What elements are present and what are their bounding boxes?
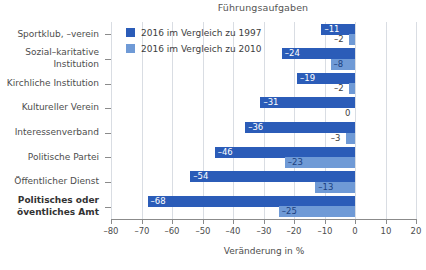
bar-value-label: –23 xyxy=(288,157,303,168)
bar-series-1 xyxy=(215,147,355,158)
x-axis-tick-label: –50 xyxy=(186,226,220,236)
bar-value-label: –24 xyxy=(285,48,300,59)
bar-series-1 xyxy=(190,171,355,182)
bar-value-label: –3 xyxy=(331,133,341,144)
bar-value-label: –2 xyxy=(334,34,344,45)
y-axis-tick xyxy=(105,207,111,208)
bar-series-2 xyxy=(346,133,355,144)
bar-series-2 xyxy=(349,83,355,94)
bar-value-label: –68 xyxy=(151,196,166,207)
legend-label-series-1: 2016 im Vergleich zu 1997 xyxy=(141,28,261,38)
gridline xyxy=(264,22,265,219)
x-axis-tick xyxy=(416,219,417,224)
y-axis-category-label: Kultureller Verein xyxy=(22,102,99,114)
x-axis-tick xyxy=(294,219,295,224)
y-axis-tick xyxy=(105,59,111,60)
x-axis-tick-label: –20 xyxy=(277,226,311,236)
chart-figure: Führungsaufgaben Sportklub, –vereinSozia… xyxy=(0,0,426,270)
legend-swatch-icon-series-1 xyxy=(126,28,135,37)
chart-title: Führungsaufgaben xyxy=(113,2,413,13)
x-axis-tick-label: –70 xyxy=(125,226,159,236)
x-axis-tick-label: –60 xyxy=(155,226,189,236)
y-axis-category-label: Politisches oder öventliches Amt xyxy=(17,195,99,218)
gridline xyxy=(416,22,417,219)
gridline xyxy=(111,22,112,219)
bar-value-label: –8 xyxy=(334,59,344,70)
chart-legend: 2016 im Vergleich zu 1997 2016 im Vergle… xyxy=(126,26,261,58)
bar-value-label: –19 xyxy=(300,73,315,84)
x-axis-tick xyxy=(111,219,112,224)
x-axis-tick-label: 0 xyxy=(338,226,372,236)
x-axis-tick xyxy=(386,219,387,224)
x-axis-title: Veränderung in % xyxy=(111,246,417,256)
x-axis-tick xyxy=(264,219,265,224)
legend-label-series-2: 2016 im Vergleich zu 2010 xyxy=(141,44,261,54)
y-axis-category-label: Politische Partei xyxy=(28,152,99,164)
bar-value-label: –25 xyxy=(282,206,297,217)
y-axis-category-label: Öffentlicher Dienst xyxy=(14,176,99,188)
x-axis-tick-label: 20 xyxy=(399,226,426,236)
bar-value-label: –11 xyxy=(324,24,339,35)
gridline xyxy=(355,22,356,219)
y-axis-tick xyxy=(105,157,111,158)
bar-series-1 xyxy=(148,196,355,207)
x-axis-tick-label: –80 xyxy=(94,226,128,236)
y-axis-category-label: Sozial–karitative Institution xyxy=(25,47,99,70)
bar-value-label: –36 xyxy=(248,122,263,133)
x-axis-tick xyxy=(172,219,173,224)
x-axis-tick xyxy=(325,219,326,224)
x-axis-tick-label: 10 xyxy=(369,226,403,236)
bar-value-label: –46 xyxy=(218,147,233,158)
bar-value-label: –13 xyxy=(318,182,333,193)
legend-swatch-icon-series-2 xyxy=(126,44,135,53)
y-axis-tick xyxy=(105,133,111,134)
legend-item-1[interactable]: 2016 im Vergleich zu 1997 xyxy=(126,26,261,39)
x-axis-tick xyxy=(233,219,234,224)
bar-value-label: –54 xyxy=(193,171,208,182)
gridline xyxy=(386,22,387,219)
bar-value-label: –31 xyxy=(263,97,278,108)
x-axis-tick xyxy=(142,219,143,224)
y-axis-category-label: Sportklub, –verein xyxy=(17,29,99,41)
y-axis-tick xyxy=(105,34,111,35)
x-axis-tick-label: –30 xyxy=(247,226,281,236)
legend-item-2[interactable]: 2016 im Vergleich zu 2010 xyxy=(126,42,261,55)
bottom-caption xyxy=(8,261,418,269)
bar-value-label: –2 xyxy=(334,83,344,94)
y-axis-tick xyxy=(105,108,111,109)
bar-series-2 xyxy=(349,34,355,45)
x-axis-tick xyxy=(355,219,356,224)
y-axis-category-label: Kirchliche Institution xyxy=(7,78,99,90)
bar-value-label: 0 xyxy=(345,108,350,119)
x-axis-tick xyxy=(203,219,204,224)
y-axis-tick xyxy=(105,84,111,85)
y-axis-category-label: Interessenverband xyxy=(15,127,99,139)
x-axis-tick-label: –10 xyxy=(308,226,342,236)
y-axis-tick xyxy=(105,182,111,183)
x-axis-tick-label: –40 xyxy=(216,226,250,236)
